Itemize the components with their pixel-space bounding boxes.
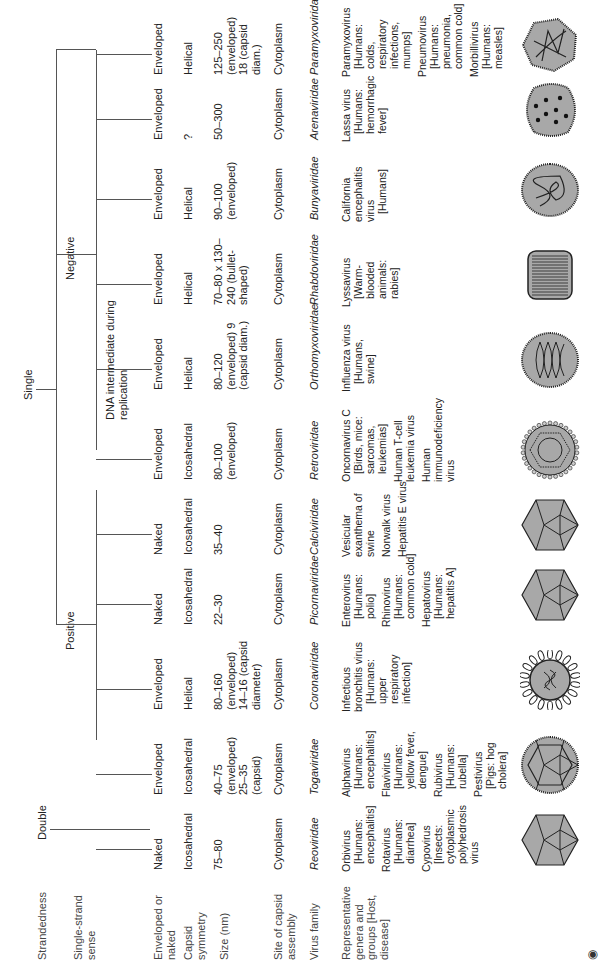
host-disease: [Humans: diarrhea]: [392, 794, 416, 872]
cell-symmetry: Icosahedral: [182, 483, 195, 555]
cell-symmetry: Helical: [182, 318, 195, 390]
tree-line: [96, 199, 152, 200]
representative-entry: Cypovirus[Insects: cytoplasmic polyhedro…: [420, 794, 480, 872]
tree-line: [56, 624, 96, 625]
tree-node-dna-intermediate: DNA intermediate during replication: [104, 290, 129, 420]
representative-genera-list: Influenza virus[Humans, swine]: [340, 314, 380, 392]
virion-tangle-icon: [520, 160, 580, 220]
representative-genera-list: Oncornavirus C[Birds, mice: sarcomas, le…: [340, 404, 460, 482]
representative-genera-list: Orbivirus[Humans: encephalitis]Rotavirus…: [340, 794, 484, 872]
genus-name: Alphavirus: [340, 719, 352, 797]
representative-entry: Norwalk virus: [380, 479, 392, 557]
genus-name: Flavivirus: [380, 719, 392, 797]
cell-envelope: Enveloped: [152, 68, 165, 140]
virion-retro-icon: [520, 420, 580, 480]
representative-entry: Morbillivirus[Humans: measles]: [468, 0, 504, 77]
representative-entry: Alphavirus[Humans: encephalitis]: [340, 719, 376, 797]
cell-envelope: Naked: [152, 798, 165, 870]
host-disease: [Humans: pneumonia, common cold]: [428, 0, 464, 77]
cell-size: 22–30: [212, 553, 225, 625]
host-disease: [Humans: yellow fever, dengue]: [392, 719, 428, 797]
representative-entry: California encephalitis virus[Humans]: [340, 144, 388, 222]
cell-size: 40–75 (enveloped) 25–35 (capsid): [212, 723, 262, 795]
representative-genera-list: Alphavirus[Humans: encephalitis]Flavivir…: [340, 719, 512, 797]
cell-envelope: Enveloped: [152, 638, 165, 710]
host-disease: [Birds, mice: sarcomas, leukemias]: [352, 404, 388, 482]
tree-node-double: Double: [36, 805, 49, 840]
host-disease: [Humans: colds, respiratory infections, …: [352, 0, 412, 77]
representative-entry: Influenza virus[Humans, swine]: [340, 314, 376, 392]
representative-entry: Human immunodeficiency virus: [420, 404, 456, 482]
row-label-assembly: Site of capsid assembly: [272, 880, 297, 960]
cell-assembly: Cytoplasm: [272, 318, 285, 390]
virion-tangle2-icon: [520, 15, 580, 75]
representative-entry: Paramyxovirus[Humans: colds, respiratory…: [340, 0, 412, 77]
genus-name: Oncornavirus C: [340, 404, 352, 482]
tree-line: [56, 50, 57, 625]
tree-node-negative: Negative: [64, 237, 77, 280]
cell-assembly: Cytoplasm: [272, 638, 285, 710]
row-label-strandedness: Strandedness: [36, 880, 49, 960]
genus-name: Pestivirus: [472, 719, 484, 797]
cell-envelope: Enveloped: [152, 723, 165, 795]
cell-assembly: Cytoplasm: [272, 408, 285, 480]
cell-symmetry: Icosahedral: [182, 408, 195, 480]
genus-name: Paramyxovirus: [340, 0, 352, 77]
representative-genera-list: California encephalitis virus[Humans]: [340, 144, 392, 222]
representative-entry: Lyssavirus[Warm-blooded animals: rabies]: [340, 229, 400, 307]
virion-icosa-icon: [520, 810, 580, 870]
host-disease: [Humans, swine]: [352, 314, 376, 392]
tree-line: [96, 54, 152, 55]
representative-entry: Pneumovirus[Humans: pneumonia, common co…: [416, 0, 464, 77]
cell-assembly: Cytoplasm: [272, 723, 285, 795]
row-label-symmetry: Capsid symmetry: [182, 880, 207, 960]
genus-name: Influenza virus: [340, 314, 352, 392]
cell-family: Arenaviridae: [308, 68, 321, 140]
host-disease: [Humans: measles]: [480, 0, 504, 77]
genus-name: California encephalitis virus: [340, 144, 376, 222]
tree-line: [56, 254, 96, 255]
genus-name: Pneumovirus: [416, 0, 428, 77]
host-disease: [Humans: encephalitis]: [352, 719, 376, 797]
virion-corona-icon: [520, 650, 580, 710]
representative-entry: Hepatovirus[Humans: hepatitis A]: [420, 549, 456, 627]
representative-entry: Hepatitis E virus: [396, 479, 408, 557]
genus-name: Rhinovirus: [380, 549, 392, 627]
genus-name: Orbivirus: [340, 794, 352, 872]
cell-assembly: Cytoplasm: [272, 798, 285, 870]
genus-name: Rubivirus: [432, 719, 444, 797]
cell-size: 125–250 (enveloped) 18 (capsid diam.): [212, 3, 262, 75]
host-disease: [Humans: common cold]: [392, 549, 416, 627]
tree-line: [56, 49, 96, 50]
tree-node-positive: Positive: [64, 611, 77, 650]
cell-family: Togaviridae: [308, 723, 321, 795]
cell-family: Calciviridae: [308, 483, 321, 555]
cell-size: 75–80: [212, 798, 225, 870]
representative-entry: Rhinovirus[Humans: common cold]: [380, 549, 416, 627]
tree-line: [96, 369, 152, 370]
tree-line: [96, 119, 152, 120]
tree-line: [96, 50, 97, 450]
representative-genera-list: Infectious bronchitis virus[Humans: uppe…: [340, 634, 416, 712]
tree-line: [96, 689, 152, 690]
genus-name: Enterovirus: [340, 549, 352, 627]
representative-entry: Flavivirus[Humans: yellow fever, dengue]: [380, 719, 428, 797]
host-disease: [Pigs: hog cholera]: [484, 719, 508, 797]
representative-entry: Pestivirus[Pigs: hog cholera]: [472, 719, 508, 797]
representative-entry: Human T-cell leukemia virus: [392, 404, 416, 482]
cell-symmetry: Helical: [182, 233, 195, 305]
host-disease: [Insects: cytoplasmic polyhedrosis virus: [432, 794, 480, 872]
cell-family: Coronaviridae: [308, 638, 321, 710]
cell-symmetry: Icosahedral: [182, 553, 195, 625]
cell-envelope: Naked: [152, 553, 165, 625]
representative-entry: Vesicular exanthema of swine: [340, 479, 376, 557]
host-disease: [Humans: upper respiratory infection]: [364, 634, 412, 712]
row-label-envelope: Enveloped or naked: [152, 880, 177, 960]
cell-symmetry: Icosahedral: [182, 723, 195, 795]
representative-entry: Enterovirus[Humans: polio]: [340, 549, 376, 627]
cell-family: Rhabdoviridae: [308, 233, 321, 305]
representative-entry: Infectious bronchitis virus[Humans: uppe…: [340, 634, 412, 712]
virion-dots-icon: [520, 80, 580, 140]
cell-size: 80–100 (enveloped): [212, 408, 237, 480]
representative-entry: Oncornavirus C[Birds, mice: sarcomas, le…: [340, 404, 388, 482]
